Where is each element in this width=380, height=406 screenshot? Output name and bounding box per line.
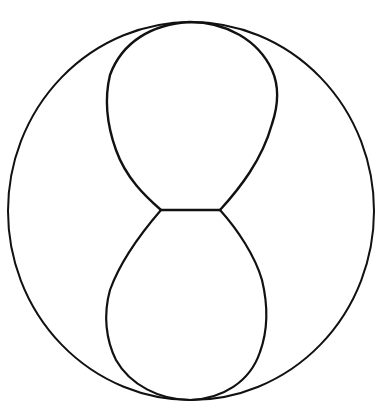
upper-lobe bbox=[107, 22, 277, 210]
lower-lobe bbox=[106, 210, 266, 400]
figure-svg bbox=[0, 0, 380, 406]
drawing-canvas bbox=[0, 0, 380, 406]
